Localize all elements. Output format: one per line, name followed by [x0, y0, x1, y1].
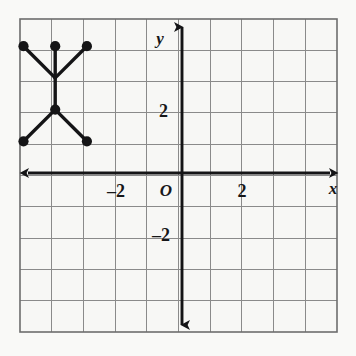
figure-point-top-left-vertex	[18, 41, 28, 51]
origin-label: O	[160, 181, 172, 200]
x-tick-negative-2: –2	[106, 181, 125, 201]
x-tick-positive-2: 2	[238, 181, 247, 201]
x-axis-label: x	[328, 179, 338, 198]
figure-point-bottom-left-vertex	[18, 136, 28, 146]
y-tick-negative-2: –2	[151, 225, 170, 245]
coordinate-plane-figure: y x O –2 2 2 –2	[0, 0, 356, 356]
figure-point-top-middle-vertex	[50, 41, 60, 51]
y-axis-label: y	[154, 29, 164, 48]
figure-point-top-right-vertex	[82, 41, 92, 51]
figure-point-center-vertex	[50, 105, 60, 115]
graph-page: y x O –2 2 2 –2	[0, 0, 356, 356]
figure-point-bottom-right-vertex	[82, 136, 92, 146]
y-tick-positive-2: 2	[159, 101, 168, 121]
